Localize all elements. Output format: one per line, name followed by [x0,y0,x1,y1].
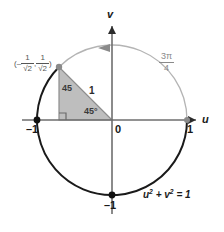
unit-circle-figure: v u 0 –1 1 –1 (–1√2,1√2) 3π4 45 45° 1 u2… [0,0,224,232]
arc-angle-fraction: 3π4 [159,52,174,73]
equation-equals-one: = 1 [174,189,191,200]
equation-plus: + [153,189,164,200]
point-coordinate-label: (–1√2,1√2) [14,54,52,73]
tick-label-minus-one-v: –1 [104,200,116,211]
point-on-circle-marker [56,64,62,70]
coord-x-numerator: 1 [21,54,34,64]
coord-x-fraction: 1√2 [21,54,34,73]
coord-open-paren: (– [14,59,21,68]
circle-equation-label: u2 + v2 = 1 [143,190,191,200]
tick-label-minus-one-u: –1 [26,124,38,135]
origin-label: 0 [115,124,121,135]
coord-y-fraction: 1√2 [36,54,49,73]
angle-label-at-origin: 45° [84,107,98,116]
coord-y-denominator: √2 [36,64,49,73]
arc-angle-label: 3π4 [159,52,174,73]
point-minus-one-v [109,192,116,199]
v-axis-arrowhead [108,26,116,34]
arc-angle-numerator: 3π [159,52,174,63]
u-axis-label: u [202,114,209,125]
coord-y-numerator: 1 [36,54,49,64]
hypotenuse-length-label: 1 [89,86,95,96]
coord-close-paren: ) [49,59,52,68]
arc-angle-denominator: 4 [159,63,174,73]
coord-x-denominator: √2 [21,64,34,73]
tick-label-one-u: 1 [187,124,193,135]
v-axis-label: v [107,9,113,20]
angle-label-at-point: 45 [62,84,72,93]
